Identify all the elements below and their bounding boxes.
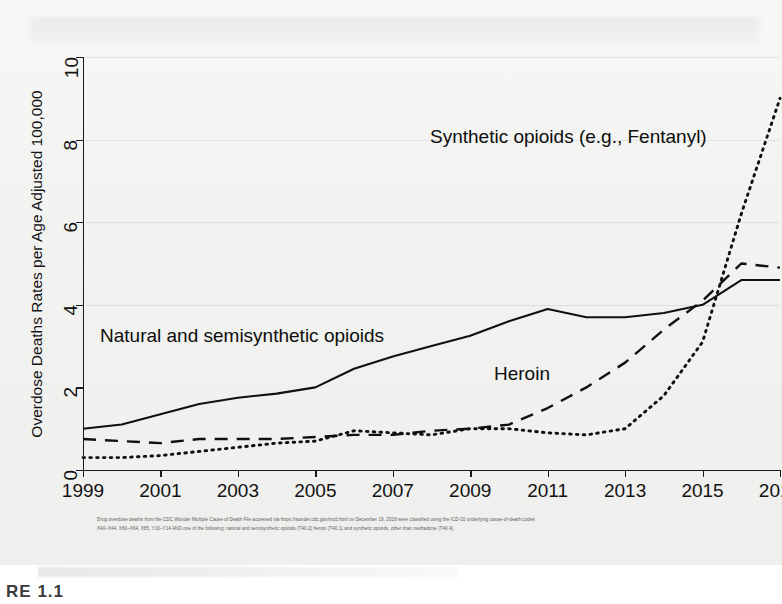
- y-axis-title: Overdose Deaths Rates per Age Adjusted 1…: [26, 57, 48, 470]
- y-tick-label-0: 0: [62, 470, 81, 481]
- series-line-solid: [83, 280, 780, 429]
- x-tick-label-2001: 2001: [139, 481, 181, 500]
- x-tick-label-2017: 2017: [759, 481, 782, 500]
- x-tick-2001: [160, 470, 161, 477]
- y-tick-label-10: 10: [62, 57, 81, 78]
- x-tick-label-2007: 2007: [372, 481, 414, 500]
- figure-caption-strip: RE 1.1: [0, 565, 782, 604]
- x-tick-label-2009: 2009: [449, 481, 491, 500]
- annotation-synthetic-opioids: Synthetic opioids (e.g., Fentanyl): [430, 126, 707, 148]
- x-tick-2011: [548, 470, 549, 477]
- x-tick-label-2015: 2015: [681, 481, 723, 500]
- x-tick-label-2005: 2005: [294, 481, 336, 500]
- x-tick-2009: [470, 470, 471, 477]
- y-tick-label-6: 6: [62, 222, 81, 233]
- x-tick-1999: [83, 470, 84, 477]
- x-axis-line: [83, 470, 780, 471]
- footnote-line-2: X40–X44, X60–X64, X85, Y10–Y14 AND one o…: [97, 525, 697, 534]
- x-tick-2003: [238, 470, 239, 477]
- x-tick-label-2003: 2003: [217, 481, 259, 500]
- annotation-heroin: Heroin: [494, 363, 550, 385]
- y-tick-label-8: 8: [62, 140, 81, 151]
- annotation-natural-semisynthetic-opioids: Natural and semisynthetic opioids: [100, 325, 384, 347]
- footnote-line-1: Drug overdose deaths from the CDC Wonder…: [97, 516, 697, 525]
- figure-caption: RE 1.1: [6, 582, 64, 604]
- x-tick-2017: [780, 470, 781, 477]
- series-lines: [83, 57, 780, 470]
- x-tick-label-2013: 2013: [604, 481, 646, 500]
- y-axis-title-text: Overdose Deaths Rates per Age Adjusted 1…: [28, 90, 46, 437]
- series-line-dashed: [83, 264, 780, 444]
- caption-scan-artifact: [38, 567, 458, 577]
- y-tick-label-2: 2: [62, 387, 81, 398]
- scanned-page: Overdose Deaths Rates per Age Adjusted 1…: [0, 0, 782, 565]
- x-tick-label-1999: 1999: [62, 481, 104, 500]
- x-tick-2005: [315, 470, 316, 477]
- x-tick-2013: [625, 470, 626, 477]
- x-tick-label-2011: 2011: [527, 481, 568, 500]
- chart-plot-area: 0246810 19992001200320052007200920112013…: [83, 57, 780, 470]
- y-tick-label-4: 4: [62, 305, 81, 316]
- figure-footnote: Drug overdose deaths from the CDC Wonder…: [97, 516, 697, 534]
- scan-artifact-top: [30, 18, 760, 44]
- series-line-dotted: [83, 98, 780, 457]
- x-tick-2015: [703, 470, 704, 477]
- x-tick-2007: [393, 470, 394, 477]
